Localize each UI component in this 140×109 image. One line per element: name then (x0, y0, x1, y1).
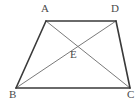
vertex-label-c: C (127, 89, 134, 100)
vertex-label-a: A (41, 3, 49, 14)
vertex-label-b: B (9, 89, 16, 100)
vertex-label-e: E (70, 49, 77, 60)
geometry-figure-canvas: A D B C E (0, 0, 140, 109)
vertex-label-d: D (111, 3, 119, 14)
